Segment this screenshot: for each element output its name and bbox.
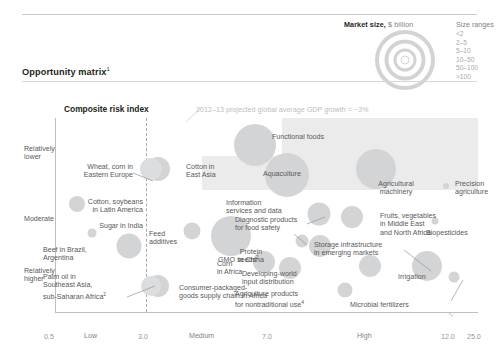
label-sugar-in-india: Sugar in India xyxy=(45,222,143,230)
label-ag-nontraditional-text: Agriculture products for nontraditional … xyxy=(235,290,301,310)
label-cotton-east-asia: Cotton in East Asia xyxy=(186,163,216,180)
market-size-label-rest: $ billion xyxy=(386,20,413,29)
gdp-growth-annotation: 2012–13 projected global average GDP gro… xyxy=(196,105,369,114)
label-irrigation: Irrigation xyxy=(398,273,426,281)
x-tick-7-0: 7.0 xyxy=(262,333,272,341)
x-tick-high: High xyxy=(357,332,372,340)
size-range-item: 50–100 xyxy=(456,64,499,73)
x-axis-line xyxy=(55,312,478,313)
x-tick-12-0: 12.0 xyxy=(441,333,455,341)
x-tick-low: Low xyxy=(84,332,97,340)
label-storage-infrastructure-emerging-markets: Storage infrastructure in emerging marke… xyxy=(314,241,382,258)
label-gmo-seeds-footnote-marker: 2 xyxy=(256,254,259,260)
label-corn-in-africa: Corn in Africa xyxy=(217,260,242,277)
y-tick-relatively-higher: Relatively higher xyxy=(24,267,55,284)
leader-line-storage-infrastructure xyxy=(404,250,434,274)
size-range-item: 5–10 xyxy=(456,47,499,56)
size-ranges-header: Size ranges xyxy=(456,20,494,29)
label-wheat-corn-eastern-europe: Wheat, corn in Eastern Europe xyxy=(49,163,133,180)
x-tick-3-0: 3.0 xyxy=(138,333,148,341)
label-palm-oil-footnote-marker: 2 xyxy=(103,291,106,297)
leader-line-diagnostic-products xyxy=(294,234,310,248)
bubble-agriculture-products-nontraditional-use xyxy=(338,283,353,298)
page-title-text: Opportunity matrix xyxy=(22,67,107,77)
bubble-irrigation xyxy=(359,255,381,277)
x-axis-title: Composite risk index xyxy=(64,104,149,114)
bubble-beef-brazil-argentina xyxy=(117,234,142,259)
size-ranges-list: <2 2–5 5–10 10–50 50–100 >100 xyxy=(456,30,499,82)
plot-area: Wheat, corn in Eastern Europe Cotton in … xyxy=(55,118,478,312)
label-beef-brazil-argentina: Beef in Brazil, Argentina xyxy=(43,246,87,263)
top-divider xyxy=(22,14,477,15)
y-tick-relatively-lower: Relatively lower xyxy=(24,145,55,162)
y-tick-moderate: Moderate xyxy=(24,215,54,223)
label-agricultural-machinery: Agricultural machinery xyxy=(358,180,434,197)
x-tick-25-0: 25.0 xyxy=(467,333,481,341)
label-information-services-and-data: Information services and data xyxy=(226,199,282,216)
page-title-footnote-marker: 1 xyxy=(107,66,110,72)
size-range-item: <2 xyxy=(456,30,499,39)
opportunity-matrix-figure: Market size, $ billion Size ranges <2 2–… xyxy=(0,0,499,351)
market-size-label-bold: Market size, xyxy=(344,20,386,29)
x-tick-0-5: 0.5 xyxy=(44,333,54,341)
bubble-fruits-vegetables-mena xyxy=(341,206,363,228)
label-developing-world-input-distribution: Developing-world input distribution xyxy=(242,270,297,287)
leader-line-wheat-corn xyxy=(133,170,155,184)
label-functional-foods: Functional foods xyxy=(272,133,324,141)
market-size-legend-title: Market size, $ billion xyxy=(344,20,413,29)
label-diagnostic-products-food-safety: Diagnostic products for food safety xyxy=(235,216,297,233)
label-agriculture-products-nontraditional-use: Agriculture products for nontraditional … xyxy=(235,290,304,310)
label-biopesticides: Biopesticides xyxy=(426,229,468,237)
label-feed-additives: Feed additives xyxy=(149,230,177,247)
label-precision-agriculture: Precision agriculture xyxy=(455,180,488,197)
bubble-precision-agriculture xyxy=(443,183,449,189)
label-cotton-soybeans-latin-america: Cotton, soybeans in Latin America xyxy=(41,198,143,215)
x-tick-medium: Medium xyxy=(189,332,214,340)
size-legend: Market size, $ billion Size ranges <2 2–… xyxy=(330,20,496,100)
bubble-feed-additives xyxy=(184,223,201,240)
size-range-item: 2–5 xyxy=(456,39,499,48)
page-title: Opportunity matrix1 xyxy=(22,66,110,77)
leader-line-microbial-fertilizers xyxy=(451,280,469,304)
label-aquaculture: Aquaculture xyxy=(263,170,301,178)
title-divider xyxy=(22,81,477,82)
axis-break-marker: ∿ xyxy=(448,311,454,319)
leader-line-information-services xyxy=(307,216,327,226)
label-microbial-fertilizers: Microbial fertilizers xyxy=(350,301,409,309)
size-range-item: 10–50 xyxy=(456,56,499,65)
label-ag-nontraditional-footnote-marker: 4 xyxy=(301,299,304,305)
leader-line-palm-oil xyxy=(127,284,157,300)
